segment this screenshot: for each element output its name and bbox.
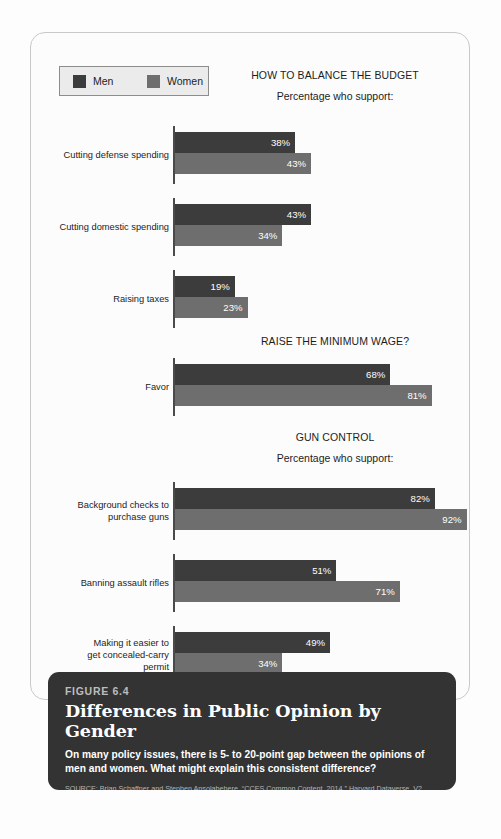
bar-value-men: 43% bbox=[287, 210, 306, 220]
label-line: Cutting defense spending bbox=[64, 150, 169, 160]
bar-value-women: 34% bbox=[258, 231, 277, 241]
bar-value-women: 71% bbox=[376, 587, 395, 597]
section-subtitle-gun-control: Percentage who support: bbox=[206, 452, 464, 464]
bar-group-label-cutting-domestic-spending: Cutting domestic spending bbox=[44, 221, 169, 233]
bar-group-label-raising-taxes: Raising taxes bbox=[44, 293, 169, 305]
bar-group-cutting-defense-spending: Cutting defense spending 38% 43% bbox=[31, 129, 471, 181]
bar-women-favor: 81% bbox=[175, 385, 432, 406]
figure-title: Differences in Public Opinion by Gender bbox=[65, 701, 439, 741]
bar-value-men: 38% bbox=[271, 138, 290, 148]
section-title-gun-control: GUN CONTROL bbox=[206, 431, 464, 443]
label-line: Making it easier to bbox=[94, 638, 169, 648]
bar-women-concealed-carry: 34% bbox=[175, 653, 283, 674]
label-line: Favor bbox=[145, 382, 169, 392]
bar-men-raising-taxes: 19% bbox=[175, 276, 235, 297]
bar-value-men: 51% bbox=[312, 566, 331, 576]
bar-group-label-favor: Favor bbox=[44, 381, 169, 393]
bar-group-background-checks: Background checks to purchase guns 82% 9… bbox=[31, 485, 471, 537]
bar-women-banning-assault-rifles: 71% bbox=[175, 581, 400, 602]
label-line: get concealed-carry bbox=[87, 650, 169, 660]
bar-value-men: 82% bbox=[411, 494, 430, 504]
bar-group-cutting-domestic-spending: Cutting domestic spending 43% 34% bbox=[31, 201, 471, 253]
bar-group-label-background-checks: Background checks to purchase guns bbox=[44, 499, 169, 523]
section-heading-gun-control: GUN CONTROL Percentage who support: bbox=[206, 431, 464, 464]
section-title-minimum-wage: RAISE THE MINIMUM WAGE? bbox=[206, 335, 464, 347]
bar-value-men: 68% bbox=[366, 370, 385, 380]
label-line: purchase guns bbox=[108, 512, 169, 522]
bar-value-women: 43% bbox=[287, 159, 306, 169]
bar-group-label-cutting-defense-spending: Cutting defense spending bbox=[44, 149, 169, 161]
bar-group-favor: Favor 68% 81% bbox=[31, 361, 471, 413]
bar-group-banning-assault-rifles: Banning assault rifles 51% 71% bbox=[31, 557, 471, 609]
bar-value-women: 34% bbox=[258, 659, 277, 669]
bar-value-men: 49% bbox=[306, 638, 325, 648]
bars-favor: 68% 81% bbox=[175, 364, 432, 406]
section-heading-budget: HOW TO BALANCE THE BUDGET Percentage who… bbox=[206, 69, 464, 102]
bars-cutting-defense-spending: 38% 43% bbox=[175, 132, 312, 174]
label-line: Banning assault rifles bbox=[81, 578, 169, 588]
section-subtitle-budget: Percentage who support: bbox=[206, 90, 464, 102]
section-heading-minimum-wage: RAISE THE MINIMUM WAGE? bbox=[206, 335, 464, 347]
figure-caption-panel: FIGURE 6.4 Differences in Public Opinion… bbox=[48, 672, 456, 790]
bar-value-women: 23% bbox=[223, 303, 242, 313]
section-title-budget: HOW TO BALANCE THE BUDGET bbox=[206, 69, 464, 81]
label-line: permit bbox=[143, 662, 169, 672]
bar-value-women: 92% bbox=[442, 515, 461, 525]
bar-group-label-banning-assault-rifles: Banning assault rifles bbox=[44, 577, 169, 589]
figure-source: SOURCE: Brian Schaffner and Stephen Anso… bbox=[65, 784, 425, 790]
label-line: Background checks to bbox=[78, 500, 169, 510]
bars-concealed-carry: 49% 34% bbox=[175, 632, 331, 674]
bar-men-favor: 68% bbox=[175, 364, 391, 385]
figure-number: FIGURE 6.4 bbox=[65, 685, 439, 697]
bar-men-background-checks: 82% bbox=[175, 488, 435, 509]
bar-value-men: 19% bbox=[211, 282, 230, 292]
bar-group-raising-taxes: Raising taxes 19% 23% bbox=[31, 273, 471, 325]
legend-label-men: Men bbox=[93, 76, 113, 87]
bar-women-cutting-domestic-spending: 34% bbox=[175, 225, 283, 246]
label-line: Cutting domestic spending bbox=[59, 222, 169, 232]
figure-container: Men Women HOW TO BALANCE THE BUDGET Perc… bbox=[0, 0, 501, 839]
bar-women-cutting-defense-spending: 43% bbox=[175, 153, 312, 174]
bars-background-checks: 82% 92% bbox=[175, 488, 467, 530]
bar-group-label-concealed-carry: Making it easier to get concealed-carry … bbox=[44, 637, 169, 673]
bars-raising-taxes: 19% 23% bbox=[175, 276, 248, 318]
bars-cutting-domestic-spending: 43% 34% bbox=[175, 204, 312, 246]
legend-swatch-men-icon bbox=[73, 75, 86, 88]
legend-swatch-women-icon bbox=[147, 75, 160, 88]
bar-women-raising-taxes: 23% bbox=[175, 297, 248, 318]
legend-item-men: Men bbox=[60, 75, 134, 88]
chart-legend: Men Women bbox=[59, 66, 209, 96]
chart-card: Men Women HOW TO BALANCE THE BUDGET Perc… bbox=[30, 32, 470, 700]
bar-women-background-checks: 92% bbox=[175, 509, 467, 530]
label-line: Raising taxes bbox=[113, 294, 169, 304]
bar-men-cutting-domestic-spending: 43% bbox=[175, 204, 312, 225]
bar-men-concealed-carry: 49% bbox=[175, 632, 331, 653]
bar-men-cutting-defense-spending: 38% bbox=[175, 132, 296, 153]
bar-men-banning-assault-rifles: 51% bbox=[175, 560, 337, 581]
figure-description: On many policy issues, there is 5- to 20… bbox=[65, 748, 439, 775]
legend-item-women: Women bbox=[134, 75, 208, 88]
bar-value-women: 81% bbox=[407, 391, 426, 401]
legend-label-women: Women bbox=[167, 76, 203, 87]
bars-banning-assault-rifles: 51% 71% bbox=[175, 560, 400, 602]
